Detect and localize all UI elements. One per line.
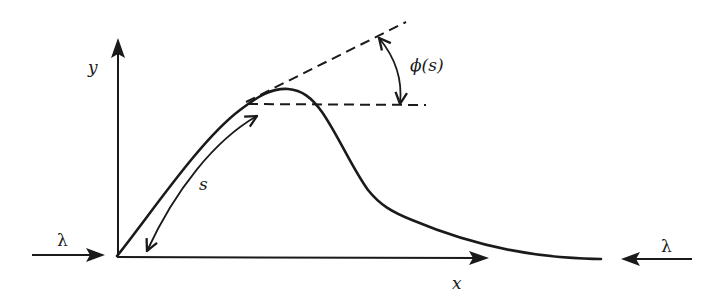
right-load-arrow	[621, 252, 692, 266]
x-axis	[117, 251, 489, 265]
horizontal-dashed-line	[248, 104, 426, 105]
left-load-arrow	[32, 248, 105, 262]
load-right-label: λ	[661, 236, 672, 256]
arc-length-label: s	[199, 174, 208, 194]
tangent-dashed-line	[246, 22, 406, 102]
y-axis	[111, 38, 125, 256]
angle-label: ϕ(s)	[410, 55, 444, 75]
y-axis-label: y	[87, 57, 98, 77]
load-left-label: λ	[57, 230, 68, 250]
angle-arc-icon	[379, 38, 401, 104]
x-axis-label: x	[452, 273, 462, 293]
diagram-canvas: y x s ϕ(s) λ λ	[0, 0, 715, 304]
rod-curve	[117, 89, 601, 259]
